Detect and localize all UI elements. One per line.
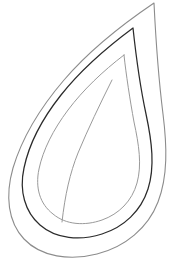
leaf-illustration — [0, 0, 171, 261]
drawing-canvas — [0, 0, 171, 261]
canvas-background — [0, 0, 171, 261]
